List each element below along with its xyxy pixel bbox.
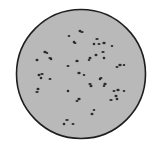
colony-speck (65, 119, 68, 121)
petri-dish-image (0, 0, 157, 148)
colony-speck (123, 90, 126, 92)
colony-speck (80, 31, 83, 33)
colony-speck (38, 74, 41, 77)
colony-speck (98, 43, 101, 45)
colony-speck (93, 43, 96, 46)
colony-speck (100, 77, 103, 79)
colony-speck (123, 64, 126, 66)
colony-speck (36, 59, 39, 62)
colony-speck (46, 52, 49, 54)
colony-speck (116, 89, 119, 92)
colony-speck (37, 88, 40, 91)
colony-speck (91, 113, 94, 116)
colony-speck (95, 54, 98, 57)
colony-speck (67, 65, 70, 67)
colony-speck (88, 83, 91, 85)
colony-speck (113, 90, 116, 92)
colony-speck (83, 74, 86, 76)
colony-speck (75, 60, 78, 63)
colony-speck (116, 66, 119, 68)
colony-speck (111, 45, 114, 47)
colony-speck (50, 58, 53, 61)
colony-speck (116, 98, 119, 101)
colony-speck (35, 91, 38, 93)
colony-speck (115, 95, 118, 98)
colony-speck (101, 51, 104, 53)
colony-speck (109, 99, 112, 101)
colony-speck (63, 123, 66, 126)
colony-speck (72, 123, 75, 125)
colony-speck (95, 38, 98, 40)
colony-speck (77, 98, 80, 101)
colony-speck (102, 42, 105, 45)
colony-speck (89, 57, 92, 60)
colony-speck (93, 109, 96, 111)
petri-dish (17, 10, 146, 139)
colony-speck (40, 73, 43, 75)
colony-speck (118, 64, 121, 67)
colony-speck (103, 85, 106, 87)
colony-speck (68, 35, 71, 37)
colony-speck (77, 72, 80, 75)
colony-speck (103, 83, 106, 86)
colony-speck (103, 57, 106, 60)
colony-speck (76, 100, 79, 102)
colony-speck (40, 77, 43, 80)
colony-speck (49, 78, 52, 80)
colony-speck (74, 42, 77, 44)
colony-speck (67, 90, 70, 93)
